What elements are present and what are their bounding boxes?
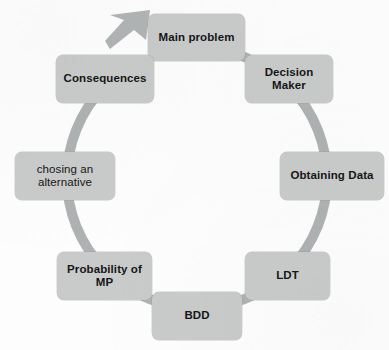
node-main-problem-label: Main problem [159,31,235,45]
node-probability-of-mp-label-line1: Probability of [67,263,142,277]
node-decision-maker-label-line2: Maker [265,79,314,93]
node-probability-of-mp-label-line2: MP [67,276,142,290]
node-decision-maker-label-line1: Decision [265,66,314,80]
node-bdd-label: BDD [184,309,209,323]
node-consequences[interactable]: Consequences [56,55,154,103]
node-bdd[interactable]: BDD [152,292,242,340]
node-probability-of-mp[interactable]: Probability of MP [57,252,152,300]
node-obtaining-data-label: Obtaining Data [290,169,373,183]
node-chosing-an-alternative-label-line2: alternative [37,176,94,190]
cycle-diagram: Main problem Decision Maker Obtaining Da… [0,0,389,350]
node-obtaining-data[interactable]: Obtaining Data [280,152,384,200]
node-ldt[interactable]: LDT [245,252,330,300]
node-chosing-an-alternative[interactable]: chosing an alternative [15,152,115,200]
node-ldt-label: LDT [276,269,299,283]
node-decision-maker[interactable]: Decision Maker [245,55,333,103]
node-chosing-an-alternative-label-line1: chosing an [37,163,94,177]
node-consequences-label: Consequences [63,72,146,86]
node-main-problem[interactable]: Main problem [148,14,245,61]
clockwise-arrowhead-icon [105,10,150,49]
